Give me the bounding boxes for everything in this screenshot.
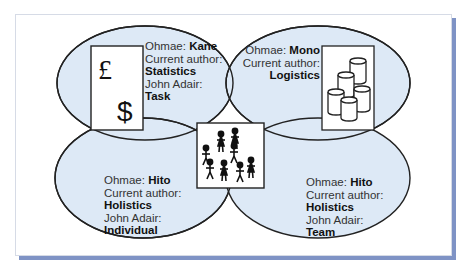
venn-diagram: £ $ [0, 0, 468, 273]
dollar-glyph: $ [117, 96, 133, 127]
people-group-icon [197, 123, 264, 188]
label-bottom-right: Ohmae: Hito Current author: Holistics Jo… [306, 176, 383, 239]
barrels-icon [322, 46, 374, 130]
label-top-right: Ohmae: Mono Current author: Logistics [237, 44, 320, 82]
pound-glyph: £ [98, 54, 112, 85]
currency-icon: £ $ [91, 46, 143, 130]
label-top-left: Ohmae: Kane Current author: Statistics J… [145, 40, 222, 103]
label-bottom-left: Ohmae: Hito Current author: Holistics Jo… [104, 174, 181, 237]
